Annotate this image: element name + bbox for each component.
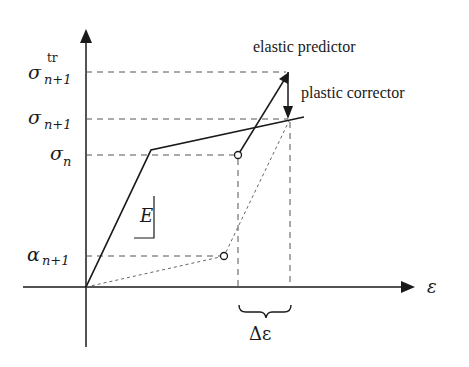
stress-strain-diagram: σ tr n+1 σ n+1 σ n α n+1 elastic predict… xyxy=(0,0,469,367)
label-sigma-tr: σ xyxy=(28,61,42,83)
stress-strain-curve xyxy=(86,117,304,287)
svg-text:n+1: n+1 xyxy=(44,117,72,132)
backstress-marker-icon xyxy=(221,253,228,260)
svg-text:n+1: n+1 xyxy=(42,253,70,268)
y-axis-labels: σ tr n+1 σ n+1 σ n α n+1 xyxy=(27,51,72,268)
modulus-label: E xyxy=(139,205,153,226)
svg-text:n+1: n+1 xyxy=(44,72,72,87)
backstress-path xyxy=(86,121,289,287)
svg-text:n: n xyxy=(63,154,71,169)
strain-increment-label: Δε xyxy=(249,323,271,344)
strain-increment-brace xyxy=(239,305,291,318)
x-axis-label: ε xyxy=(427,276,437,297)
plastic-corrector-arrowhead-icon xyxy=(283,106,293,119)
plastic-corrector-label: plastic corrector xyxy=(301,84,405,102)
label-alpha-n1: α xyxy=(27,243,40,265)
x-axis-arrow-icon xyxy=(401,281,415,293)
elastic-predictor-label: elastic predictor xyxy=(253,38,356,56)
label-sigma-n: σ xyxy=(50,142,64,164)
label-sigma-n1: σ xyxy=(28,106,42,128)
axes xyxy=(23,29,415,347)
y-axis-arrow-icon xyxy=(80,29,92,43)
guide-lines xyxy=(86,72,290,287)
state-n-marker-icon xyxy=(235,152,242,159)
svg-text:tr: tr xyxy=(47,51,58,65)
